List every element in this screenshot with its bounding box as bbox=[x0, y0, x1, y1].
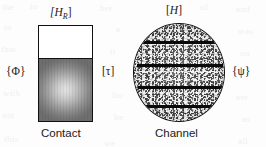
contact-top-label-bracket: ] bbox=[68, 6, 72, 18]
channel-bar bbox=[144, 105, 216, 108]
channel-bar bbox=[138, 86, 222, 89]
bleed-through-text: was bbox=[238, 26, 253, 36]
channel-top-label-var: H bbox=[170, 4, 178, 16]
bleed-through-text: we bbox=[104, 138, 115, 147]
bleed-through-text: a bbox=[116, 24, 120, 34]
bleed-through-text: this bbox=[4, 134, 19, 144]
bleed-through-text: in bbox=[4, 22, 12, 32]
contact-left-label-phi: {Φ} bbox=[6, 66, 25, 78]
contact-rectangle bbox=[38, 25, 93, 122]
bleed-through-text: her bbox=[100, 3, 113, 13]
bleed-through-text: the bbox=[2, 2, 14, 12]
channel-top-label-close: ] bbox=[178, 4, 182, 16]
figure-contact-and-channel: thetoherofandinawasthatitonwithforarenot… bbox=[0, 0, 266, 147]
bleed-through-text: all bbox=[238, 136, 248, 146]
contact-lower-region bbox=[39, 58, 92, 121]
bleed-through-text: not bbox=[2, 110, 15, 120]
bleed-through-text: and bbox=[236, 4, 250, 14]
bleed-through-text: of bbox=[200, 2, 208, 12]
contact-right-label-tau: [τ] bbox=[102, 66, 114, 78]
channel-top-label: [H] bbox=[166, 5, 182, 17]
bleed-through-text: as bbox=[242, 114, 250, 124]
channel-bar bbox=[141, 41, 219, 44]
contact-caption: Contact bbox=[41, 128, 81, 140]
bleed-through-text: for bbox=[112, 90, 124, 100]
channel-bar bbox=[137, 64, 223, 67]
channel-right-label-psi: {ψ} bbox=[232, 66, 250, 78]
bleed-through-text: that bbox=[1, 44, 16, 54]
bleed-through-text: be bbox=[114, 112, 123, 122]
contact-upper-region bbox=[39, 26, 92, 58]
bleed-through-text: are bbox=[236, 92, 248, 102]
bleed-through-text: on bbox=[240, 48, 250, 58]
bleed-through-text: to bbox=[30, 1, 38, 11]
contact-top-label-var: [H bbox=[50, 6, 63, 18]
bleed-through-text: with bbox=[3, 88, 21, 98]
channel-caption: Channel bbox=[155, 128, 198, 140]
contact-gradient-grain bbox=[39, 59, 92, 121]
channel-circle bbox=[133, 23, 225, 122]
contact-top-label: [HR] bbox=[50, 7, 72, 21]
bleed-through-text: it bbox=[110, 46, 116, 56]
